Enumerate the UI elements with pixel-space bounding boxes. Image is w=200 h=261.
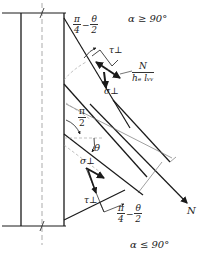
tau-perp-bottom-label: τ⊥ <box>84 196 97 205</box>
base-plate <box>2 13 66 226</box>
condition-bottom-label: α ≤ 90° <box>130 240 169 250</box>
stress-fraction-label: N hₑ lᵥᵥ <box>132 62 154 83</box>
diagram-drawing <box>0 0 200 261</box>
sigma-perp-top-label: σ⊥ <box>104 87 119 96</box>
force-label: N <box>187 206 196 216</box>
upper-stress-vectors <box>92 50 132 88</box>
weld-stress-diagram: α ≥ 90° α ≤ 90° π4 − θ2 π4 − θ2 π 2 N hₑ… <box>0 0 200 261</box>
condition-top-label: α ≥ 90° <box>128 14 167 24</box>
tau-perp-top-label: τ⊥ <box>109 46 122 55</box>
angle-label-bottom: π4 − θ2 <box>117 203 142 224</box>
right-angle-label: π 2 <box>78 107 86 128</box>
center-line <box>40 3 44 245</box>
sigma-perp-bottom-label: σ⊥ <box>80 157 95 166</box>
theta-label: θ <box>94 143 100 153</box>
angle-label-top: π4 − θ2 <box>73 14 98 35</box>
